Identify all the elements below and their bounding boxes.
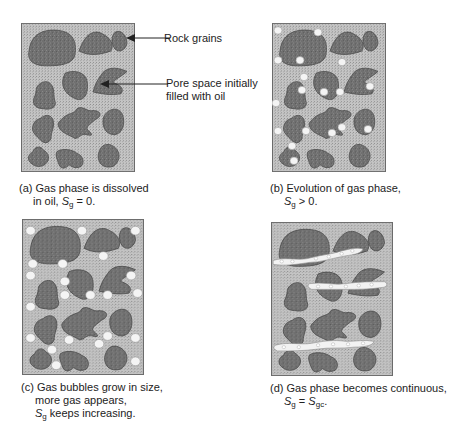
panel-d-caption: (d) Gas phase becomes continuous, Sg = S… xyxy=(270,382,447,408)
pore-space-arrow xyxy=(100,79,168,89)
panel-d-pore-diagram xyxy=(271,222,393,376)
panel-b-pore-diagram xyxy=(272,23,386,172)
panel-a-pore-diagram xyxy=(21,23,135,172)
pore-space-label-line1: Pore space initially xyxy=(166,77,258,89)
rock-grains-label: Rock grains xyxy=(164,32,222,45)
panel-c-pore-diagram xyxy=(22,219,144,375)
panel-b-caption: (b) Evolution of gas phase, Sg > 0. xyxy=(270,182,401,208)
panel-a-caption: (a) Gas phase is dissolved in oil, Sg = … xyxy=(19,182,149,208)
pore-space-label-line2: filled with oil xyxy=(166,90,225,102)
panel-c-caption: (c) Gas bubbles grow in size, more gas a… xyxy=(21,381,163,420)
pore-space-label: Pore space initially filled with oil xyxy=(166,77,258,103)
